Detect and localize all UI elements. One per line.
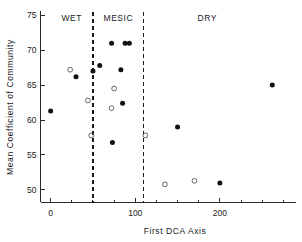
y-axis-title: Mean Coefficient of Community bbox=[5, 39, 15, 175]
data-point-filled bbox=[120, 101, 125, 106]
x-axis-title: First DCA Axis bbox=[144, 226, 207, 236]
data-point-filled bbox=[118, 67, 123, 72]
y-tick-label: 60 bbox=[27, 115, 37, 125]
y-tick-label: 70 bbox=[27, 45, 37, 55]
data-point-filled bbox=[74, 74, 79, 79]
zone-label-wet: WET bbox=[62, 13, 82, 23]
x-tick-label: 100 bbox=[128, 208, 142, 218]
scatter-plot-figure: 505560657075 0100200 WETMESICDRY First D… bbox=[0, 0, 302, 242]
y-tick-label: 75 bbox=[27, 10, 37, 20]
zone-label-mesic: MESIC bbox=[104, 13, 133, 23]
data-point-filled bbox=[175, 125, 180, 130]
data-point-filled bbox=[90, 69, 95, 74]
data-point-filled bbox=[270, 83, 275, 88]
data-point-filled bbox=[97, 63, 102, 68]
x-tick-label: 0 bbox=[48, 208, 53, 218]
y-tick-label: 50 bbox=[27, 185, 37, 195]
plot-area-background bbox=[0, 0, 302, 242]
chart-canvas: 505560657075 0100200 WETMESICDRY First D… bbox=[0, 0, 302, 242]
data-point-filled bbox=[110, 140, 115, 145]
y-tick-label: 65 bbox=[27, 80, 37, 90]
y-tick-label: 55 bbox=[27, 150, 37, 160]
data-point-filled bbox=[109, 41, 114, 46]
data-point-filled bbox=[48, 108, 53, 113]
x-tick-label: 200 bbox=[213, 208, 227, 218]
data-point-filled bbox=[127, 41, 132, 46]
zone-label-dry: DRY bbox=[198, 13, 217, 23]
data-point-filled bbox=[217, 180, 222, 185]
